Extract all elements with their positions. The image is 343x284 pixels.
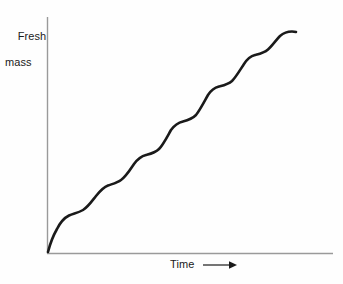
- y-axis-label-line1: Fresh: [18, 30, 47, 42]
- x-axis-label: Time: [170, 258, 194, 271]
- chart-figure: Fresh mass Time: [0, 0, 343, 284]
- y-axis-label-line2: mass: [5, 56, 46, 69]
- arrow-head: [229, 261, 237, 269]
- chart-plot-area: [0, 0, 343, 284]
- growth-curve-line: [48, 32, 296, 253]
- right-arrow-icon: [203, 259, 239, 271]
- y-axis-label: Fresh mass: [5, 17, 46, 95]
